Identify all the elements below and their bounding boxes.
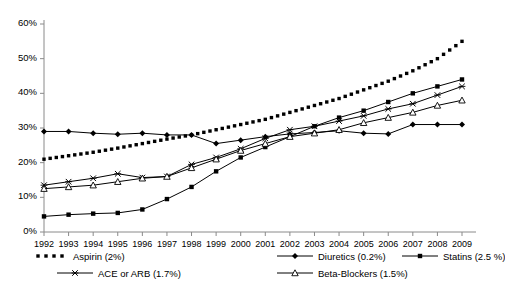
series-point-statins-marker [214, 169, 218, 173]
series-point-aspirin-marker [135, 143, 138, 146]
chart-legend: Aspirin (2%)Diuretics (0.2%)Statins (2.5… [0, 248, 484, 286]
legend-key-ace_or_arb [55, 267, 95, 279]
series-point-aspirin-marker [374, 84, 377, 87]
series-point-aspirin-marker [442, 53, 445, 56]
series-line-diuretics [44, 125, 462, 144]
legend-item-aspirin[interactable]: Aspirin (2%) [30, 248, 125, 264]
series-point-aspirin-marker [276, 114, 279, 117]
series-point-aspirin-marker [362, 88, 365, 91]
series-point-diuretics-marker [361, 130, 367, 136]
legend-marker-aspirin-marker [52, 254, 55, 257]
series-point-aspirin-marker [153, 140, 156, 143]
legend-swatch-diuretics [275, 250, 315, 262]
series-point-aspirin-marker [214, 128, 217, 131]
series-point-aspirin-marker [245, 122, 248, 125]
series-point-aspirin-marker [319, 102, 322, 105]
series-point-aspirin-marker [460, 40, 463, 43]
series-point-ace_or_arb-marker [90, 175, 97, 181]
series-point-aspirin-marker [411, 69, 414, 72]
series-point-aspirin-marker [423, 63, 426, 66]
series-point-aspirin-marker [387, 80, 390, 83]
series-point-statins-marker [42, 214, 46, 218]
series-point-aspirin-marker [79, 152, 82, 155]
series-point-aspirin-marker [227, 125, 230, 128]
legend-item-ace_or_arb[interactable]: ACE or ARB (1.7%) [55, 265, 181, 281]
series-point-aspirin-marker [393, 77, 396, 80]
series-point-diuretics-marker [164, 132, 170, 138]
series-point-statins-marker [91, 211, 95, 215]
legend-key-beta_blockers [275, 267, 315, 279]
series-point-aspirin-marker [350, 93, 353, 96]
series-point-aspirin-marker [91, 151, 94, 154]
y-axis-tick-label: 30% [2, 122, 37, 132]
series-point-diuretics-marker [410, 122, 416, 128]
legend-item-diuretics[interactable]: Diuretics (0.2%) [275, 248, 386, 264]
series-point-statins-marker [411, 91, 415, 95]
series-point-ace_or_arb-marker [459, 84, 466, 90]
series-point-aspirin-marker [171, 136, 174, 139]
series-point-aspirin-marker [42, 158, 45, 161]
series-point-aspirin-marker [331, 99, 334, 102]
series-aspirin [42, 40, 463, 161]
series-point-aspirin-marker [233, 124, 236, 127]
series-point-statins-marker [386, 100, 390, 104]
series-point-aspirin-marker [239, 123, 242, 126]
series-ace_or_arb [41, 84, 466, 188]
legend-key-statins [400, 250, 440, 262]
series-point-diuretics-marker [90, 130, 96, 136]
series-point-aspirin-marker [436, 57, 439, 60]
series-point-aspirin-marker [110, 147, 113, 150]
series-point-aspirin-marker [85, 151, 88, 154]
series-point-aspirin-marker [61, 155, 64, 158]
series-point-aspirin-marker [122, 145, 125, 148]
series-point-aspirin-marker [73, 153, 76, 156]
series-point-ace_or_arb-marker [434, 92, 441, 98]
legend-marker-diuretics-marker [292, 253, 298, 259]
series-point-aspirin-marker [208, 129, 211, 132]
series-point-statins-marker [239, 155, 243, 159]
series-point-aspirin-marker [116, 146, 119, 149]
series-point-ace_or_arb-marker [114, 171, 121, 177]
series-point-aspirin-marker [368, 86, 371, 89]
series-point-statins-marker [140, 207, 144, 211]
series-point-aspirin-marker [325, 100, 328, 103]
legend-label-diuretics: Diuretics (0.2%) [318, 251, 386, 262]
series-point-diuretics-marker [238, 137, 244, 143]
series-point-ace_or_arb-marker [385, 106, 392, 112]
series-point-aspirin-marker [104, 148, 107, 151]
y-axis-tick-label: 10% [2, 191, 37, 201]
legend-item-statins[interactable]: Statins (2.5 %) [400, 248, 505, 264]
series-beta_blockers [41, 97, 465, 191]
series-point-diuretics-marker [115, 131, 121, 137]
series-point-aspirin-marker [399, 74, 402, 77]
series-point-aspirin-marker [48, 157, 51, 160]
series-point-aspirin-marker [300, 107, 303, 110]
y-axis-tick-label: 60% [2, 18, 37, 28]
series-point-aspirin-marker [454, 44, 457, 47]
series-point-statins-marker [460, 77, 464, 81]
legend-item-beta_blockers[interactable]: Beta-Blockers (1.5%) [275, 265, 408, 281]
series-point-aspirin-marker [380, 82, 383, 85]
legend-marker-aspirin-marker [36, 254, 39, 257]
legend-marker-aspirin-marker [44, 254, 47, 257]
series-point-diuretics-marker [213, 141, 219, 147]
y-axis-tick-label: 20% [2, 157, 37, 167]
series-point-aspirin-marker [196, 132, 199, 135]
series-point-aspirin-marker [141, 142, 144, 145]
legend-swatch-aspirin [30, 250, 70, 262]
series-point-statins-marker [361, 108, 365, 112]
series-point-aspirin-marker [448, 48, 451, 51]
series-point-aspirin-marker [55, 156, 58, 159]
legend-key-aspirin [30, 250, 70, 262]
legend-marker-ace_or_arb-marker [72, 270, 79, 276]
series-point-aspirin-marker [307, 106, 310, 109]
series-point-diuretics-marker [139, 130, 145, 136]
series-point-statins-marker [165, 197, 169, 201]
series-line-ace_or_arb [44, 86, 462, 185]
series-point-aspirin-marker [159, 139, 162, 142]
series-statins [42, 77, 464, 218]
series-point-diuretics-marker [41, 128, 47, 134]
series-point-aspirin-marker [288, 111, 291, 114]
legend-label-ace_or_arb: ACE or ARB (1.7%) [98, 268, 181, 279]
